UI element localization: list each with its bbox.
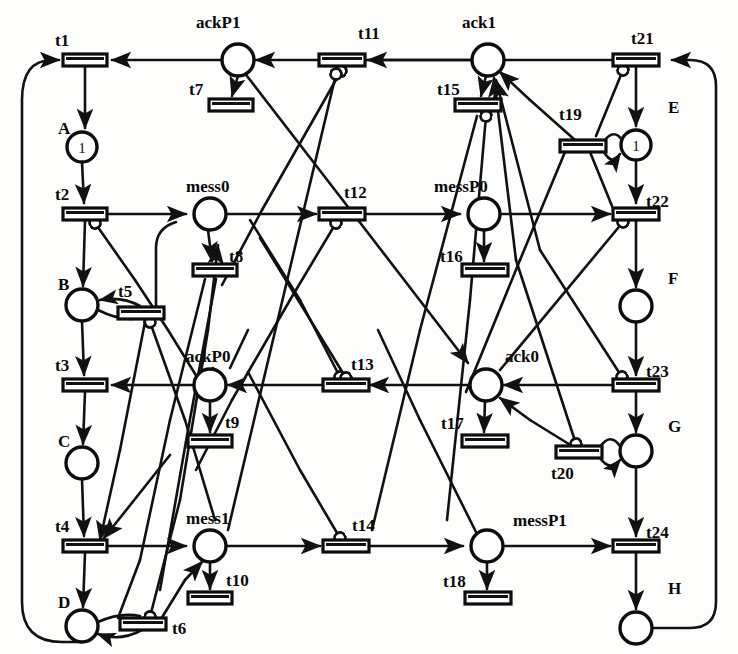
petri-net-figure: 1 1: [0, 0, 738, 654]
place-mess1[interactable]: [194, 530, 226, 562]
label-t10: t10: [226, 571, 249, 590]
label-t18: t18: [443, 572, 466, 591]
label-t9: t9: [225, 413, 239, 432]
transition-t14[interactable]: [323, 540, 369, 552]
transition-t19[interactable]: [560, 140, 606, 152]
transition-t21[interactable]: [613, 54, 659, 66]
transition-t13[interactable]: [323, 379, 369, 391]
label-t7: t7: [189, 80, 204, 99]
label-t14: t14: [352, 516, 375, 535]
place-messP1[interactable]: [471, 530, 503, 562]
place-A[interactable]: 1: [67, 132, 97, 162]
label-t23: t23: [646, 362, 669, 381]
label-place-C: C: [58, 432, 70, 451]
place-ackP0[interactable]: [194, 369, 226, 401]
label-place-D: D: [58, 593, 70, 612]
label-t1: t1: [55, 31, 69, 50]
place-E-token: 1: [632, 138, 640, 154]
places-layer: 1 1: [66, 44, 652, 644]
transition-t11[interactable]: [319, 54, 365, 66]
label-place-ackP1: ackP1: [196, 13, 240, 32]
label-place-mess1: mess1: [186, 509, 229, 528]
transition-t15[interactable]: [455, 99, 501, 111]
place-G[interactable]: [620, 435, 652, 467]
place-ackP1[interactable]: [222, 44, 254, 76]
place-C[interactable]: [66, 447, 98, 479]
label-t13: t13: [351, 355, 374, 374]
transition-t12[interactable]: [319, 208, 365, 220]
label-t20: t20: [551, 464, 574, 483]
label-place-mess0: mess0: [186, 177, 229, 196]
label-t5: t5: [118, 282, 132, 301]
transition-t7[interactable]: [209, 99, 253, 111]
label-place-ackP0: ackP0: [186, 347, 230, 366]
transition-t18[interactable]: [465, 592, 511, 604]
transition-t3[interactable]: [63, 379, 107, 391]
transition-t20[interactable]: [556, 446, 602, 458]
label-t4: t4: [55, 517, 70, 536]
arc-t5-to-mess0-feed: [156, 222, 176, 314]
label-place-messP0: messP0: [434, 177, 488, 196]
label-t22: t22: [646, 192, 669, 211]
label-t12: t12: [344, 183, 367, 202]
label-t24: t24: [646, 523, 669, 542]
place-A-token: 1: [78, 140, 86, 156]
place-B[interactable]: [66, 289, 98, 321]
label-place-messP1: messP1: [513, 511, 567, 530]
label-t2: t2: [55, 185, 69, 204]
place-F[interactable]: [620, 290, 652, 322]
transition-t4[interactable]: [63, 540, 107, 552]
label-place-A: A: [58, 119, 71, 138]
place-E[interactable]: 1: [621, 130, 651, 160]
transitions-layer: [63, 54, 659, 630]
label-place-ack0: ack0: [505, 347, 539, 366]
label-t16: t16: [440, 247, 463, 266]
transition-t9[interactable]: [188, 435, 232, 447]
outer-loop-right: [652, 60, 716, 628]
transition-t10[interactable]: [188, 592, 232, 604]
label-t19: t19: [559, 105, 582, 124]
place-mess0[interactable]: [194, 198, 226, 230]
label-t6: t6: [172, 619, 186, 638]
transition-t17[interactable]: [462, 435, 508, 447]
transition-t16[interactable]: [462, 264, 508, 276]
label-place-B: B: [58, 275, 69, 294]
place-ack0[interactable]: [470, 369, 502, 401]
label-t17: t17: [441, 414, 464, 433]
label-place-ack1: ack1: [462, 13, 496, 32]
label-t3: t3: [55, 356, 69, 375]
transition-t2[interactable]: [63, 208, 107, 220]
place-H[interactable]: [620, 612, 652, 644]
place-messP0[interactable]: [468, 198, 500, 230]
label-place-G: G: [668, 417, 681, 436]
label-t15: t15: [437, 80, 460, 99]
label-t21: t21: [631, 29, 654, 48]
label-place-E: E: [668, 98, 679, 117]
label-place-H: H: [668, 579, 681, 598]
place-ack1[interactable]: [472, 44, 504, 76]
transition-t1[interactable]: [63, 54, 107, 66]
label-t8: t8: [229, 247, 243, 266]
place-D[interactable]: [66, 610, 98, 642]
transition-t6[interactable]: [120, 618, 166, 630]
transition-t5[interactable]: [118, 307, 164, 319]
label-t11: t11: [358, 24, 380, 43]
petri-net-canvas: 1 1: [0, 0, 738, 654]
label-place-F: F: [668, 269, 678, 288]
